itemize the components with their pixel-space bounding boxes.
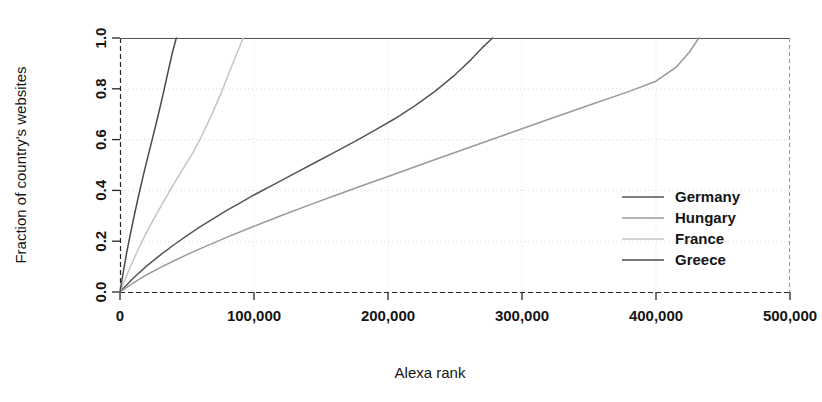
legend-label-germany: Germany: [675, 188, 741, 205]
legend-label-france: France: [675, 230, 724, 247]
y-axis-tick-label: 0.4: [92, 179, 109, 201]
x-axis-tick-label: 300,000: [495, 307, 549, 324]
x-axis-tick-label: 400,000: [629, 307, 683, 324]
x-axis-tick-label: 0: [116, 307, 124, 324]
y-axis-title: Fraction of country's websites: [12, 66, 29, 263]
y-axis-tick-label: 0.8: [92, 78, 109, 99]
y-axis-tick-label: 1.0: [92, 28, 109, 49]
x-axis-tick-label: 500,000: [763, 307, 817, 324]
y-axis-tick-label: 0.0: [92, 282, 109, 303]
x-axis-tick-label: 100,000: [227, 307, 281, 324]
y-axis-tick-label: 0.6: [92, 129, 109, 150]
x-axis-tick-label: 200,000: [361, 307, 415, 324]
y-axis-tick-label: 0.2: [92, 231, 109, 252]
legend-label-greece: Greece: [675, 251, 726, 268]
legend-label-hungary: Hungary: [675, 209, 737, 226]
alexa-rank-cdf-chart: 0100,000200,000300,000400,000500,000 0.0…: [0, 0, 822, 402]
x-axis-title: Alexa rank: [395, 364, 466, 381]
